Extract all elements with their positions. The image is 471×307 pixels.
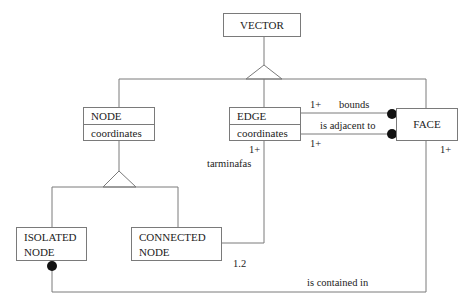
contained-multiplicity: 1+ — [440, 144, 451, 155]
adjacent-label: is adjacent to — [320, 120, 375, 131]
many-dot-contained — [47, 261, 57, 271]
class-vector: VECTOR — [223, 13, 301, 37]
class-isolated-node: ISOLATED NODE — [16, 227, 87, 261]
class-edge-attribute: coordinates — [230, 124, 300, 141]
terminates-node-multiplicity: 1.2 — [233, 258, 246, 269]
connected-line2: NODE — [132, 245, 221, 260]
adjacent-multiplicity: 1+ — [310, 138, 321, 149]
class-connected-node: CONNECTED NODE — [131, 227, 222, 261]
class-node-attribute: coordinates — [84, 124, 154, 141]
class-node-name: NODE — [84, 108, 154, 124]
class-edge-name: EDGE — [230, 108, 300, 124]
class-node: NODE coordinates — [83, 107, 155, 141]
isolated-line1: ISOLATED — [17, 228, 86, 245]
bounds-multiplicity: 1+ — [310, 99, 321, 110]
bounds-label: bounds — [339, 99, 369, 110]
isolated-line2: NODE — [17, 245, 86, 260]
class-face-name: FACE — [397, 109, 457, 140]
connected-line1: CONNECTED — [132, 228, 221, 245]
class-face: FACE — [396, 108, 458, 141]
contained-label: is contained in — [307, 277, 368, 288]
terminates-edge-multiplicity: 1+ — [249, 144, 260, 155]
class-edge: EDGE coordinates — [229, 107, 301, 141]
terminates-label: tarminafas — [207, 158, 251, 169]
class-vector-name: VECTOR — [224, 14, 300, 36]
